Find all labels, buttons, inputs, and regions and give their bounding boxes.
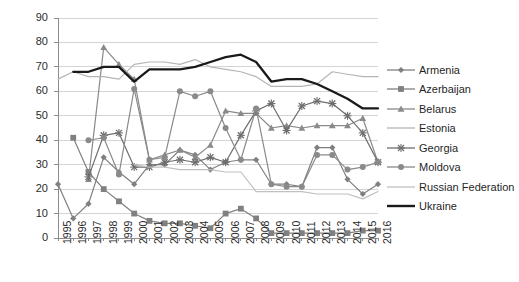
legend-label: Estonia <box>416 122 456 134</box>
y-tick-label: 40 <box>22 134 48 145</box>
x-tick-label: 1996 <box>77 221 87 244</box>
legend-item-ukraine[interactable]: Ukraine <box>386 197 519 217</box>
x-tick-label: 2016 <box>382 221 392 244</box>
x-tick-label: 2006 <box>230 221 240 244</box>
legend-item-georgia[interactable]: Georgia <box>386 138 519 158</box>
x-tick-label: 2007 <box>245 221 255 244</box>
chart-legend: ArmeniaAzerbaijanBelarusEstoniaGeorgiaMo… <box>386 60 519 216</box>
x-tick-label: 2008 <box>260 221 270 244</box>
legend-item-estonia[interactable]: Estonia <box>386 119 519 139</box>
legend-item-moldova[interactable]: Moldova <box>386 158 519 178</box>
y-tick-label: 70 <box>22 61 48 72</box>
legend-item-russian-federation[interactable]: Russian Federation <box>386 177 519 197</box>
legend-marker-icon <box>386 141 416 155</box>
x-tick-label: 2010 <box>291 221 301 244</box>
y-tick-label: 50 <box>22 110 48 121</box>
legend-label: Ukraine <box>416 200 457 212</box>
x-tick-label: 2003 <box>184 221 194 244</box>
x-tick-label: 2012 <box>321 221 331 244</box>
legend-label: Azerbaijan <box>416 83 471 95</box>
x-tick-label: 2014 <box>352 221 362 244</box>
legend-marker-icon <box>386 102 416 116</box>
legend-marker-icon <box>386 199 416 213</box>
series-georgia <box>84 97 382 181</box>
legend-label: Georgia <box>416 142 458 154</box>
y-tick-label: 10 <box>22 208 48 219</box>
y-tick-label: 20 <box>22 183 48 194</box>
legend-marker-icon <box>386 63 416 77</box>
series-moldova <box>85 86 381 190</box>
x-tick-label: 1997 <box>92 221 102 244</box>
x-tick-label: 2011 <box>306 221 316 244</box>
x-tick-label: 2001 <box>153 221 163 244</box>
legend-marker-icon <box>386 82 416 96</box>
legend-item-armenia[interactable]: Armenia <box>386 60 519 80</box>
legend-label: Russian Federation <box>416 181 514 193</box>
y-tick-label: 30 <box>22 159 48 170</box>
x-tick-label: 2013 <box>336 221 346 244</box>
series-estonia <box>58 60 378 87</box>
legend-label: Armenia <box>416 64 460 76</box>
legend-item-belarus[interactable]: Belarus <box>386 99 519 119</box>
series-russian-federation <box>134 165 378 199</box>
y-tick-label: 90 <box>22 12 48 23</box>
y-tick-label: 60 <box>22 85 48 96</box>
legend-marker-icon <box>386 160 416 174</box>
x-tick-label: 2009 <box>275 221 285 244</box>
legend-marker-icon <box>386 180 416 194</box>
x-tick-label: 2015 <box>367 221 377 244</box>
x-tick-label: 1995 <box>62 221 72 244</box>
x-tick-label: 2004 <box>199 221 209 244</box>
x-tick-label: 1998 <box>108 221 118 244</box>
legend-marker-icon <box>386 121 416 135</box>
x-tick-label: 2002 <box>169 221 179 244</box>
y-tick-marks <box>54 18 58 238</box>
line-chart: 9080706050403020100 19951996199719981999… <box>0 0 519 282</box>
legend-label: Moldova <box>416 161 461 173</box>
legend-label: Belarus <box>416 103 456 115</box>
x-tick-label: 1999 <box>123 221 133 244</box>
legend-item-azerbaijan[interactable]: Azerbaijan <box>386 80 519 100</box>
y-tick-label: 0 <box>22 232 48 243</box>
x-tick-label: 2000 <box>138 221 148 244</box>
y-tick-label: 80 <box>22 36 48 47</box>
x-tick-label: 2005 <box>214 221 224 244</box>
